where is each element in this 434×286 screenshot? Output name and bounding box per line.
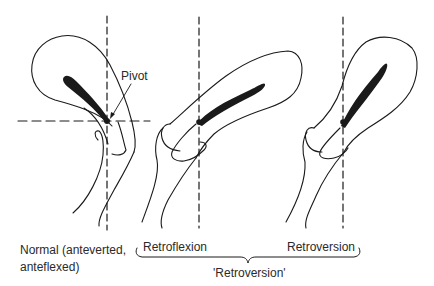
figure-label-normal-line2: anteflexed) — [20, 260, 79, 274]
figure-label-retroflexion: Retroflexion — [143, 240, 207, 254]
figure-retroflexion — [142, 17, 302, 228]
vagina-retroversion — [286, 132, 344, 228]
cervix-outline-retroflexion — [172, 124, 206, 161]
figure-label-retroversion: Retroversion — [287, 240, 355, 254]
posterior-lip-retroflexion — [161, 124, 180, 151]
group-label-retroversion: 'Retroversion' — [213, 266, 286, 280]
pivot-label: Pivot — [121, 69, 148, 83]
figure-label-normal-line1: Normal (anteverted, — [20, 243, 126, 257]
uterine-cavity-normal — [63, 76, 108, 123]
uterine-cavity-retroflexion — [197, 83, 265, 126]
pivot-point-retroversion — [340, 119, 346, 125]
figure-retroversion — [286, 17, 417, 228]
figure-normal — [18, 16, 150, 230]
uterine-cavity-retroversion — [341, 63, 387, 128]
pivot-point-retroflexion — [196, 119, 202, 125]
cervix-outline-retroversion — [320, 128, 348, 159]
pivot-point-normal — [104, 118, 110, 124]
vagina-retroflexion — [142, 128, 196, 228]
uterus-body-retroflexion — [170, 51, 302, 158]
posterior-lip-retroversion — [305, 128, 322, 152]
